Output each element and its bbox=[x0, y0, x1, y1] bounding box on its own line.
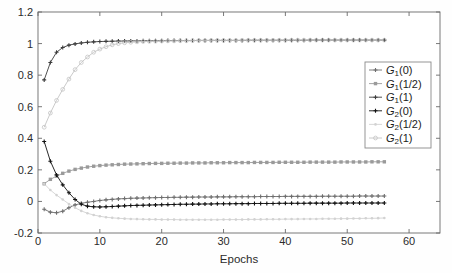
y-tick-label: 0 bbox=[27, 195, 33, 207]
y-tick-label: 0.4 bbox=[18, 132, 33, 144]
y-tick-label: 1 bbox=[27, 38, 33, 50]
y-tick-label: 1.2 bbox=[18, 6, 33, 18]
x-tick-label: 30 bbox=[217, 235, 229, 247]
x-tick-label: 0 bbox=[35, 235, 41, 247]
y-tick-label: 0.6 bbox=[18, 101, 33, 113]
figure-container: 0102030405060-0.200.20.40.60.811.2Epochs… bbox=[0, 0, 452, 273]
x-tick-label: 10 bbox=[94, 235, 106, 247]
x-tick-label: 40 bbox=[279, 235, 291, 247]
x-axis-title: Epochs bbox=[220, 253, 259, 265]
y-tick-label: 0.2 bbox=[18, 164, 33, 176]
y-tick-label: -0.2 bbox=[14, 227, 33, 239]
x-tick-label: 20 bbox=[156, 235, 168, 247]
x-tick-label: 50 bbox=[341, 235, 353, 247]
x-tick-label: 60 bbox=[403, 235, 415, 247]
y-tick-label: 0.8 bbox=[18, 69, 33, 81]
chart-plot: 0102030405060-0.200.20.40.60.811.2Epochs… bbox=[0, 0, 452, 273]
